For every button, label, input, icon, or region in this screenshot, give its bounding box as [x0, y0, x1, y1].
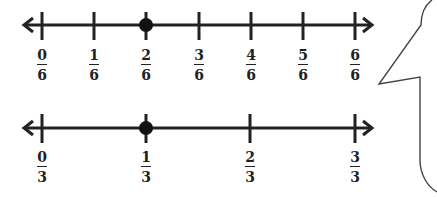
marked-point-dot — [139, 121, 153, 135]
denominator: 3 — [240, 170, 260, 184]
numerator: 2 — [136, 48, 156, 62]
numerator: 3 — [345, 150, 365, 164]
fraction-label: 36 — [189, 48, 209, 82]
fraction-bar — [350, 64, 360, 65]
fraction-bar — [350, 166, 360, 167]
denominator: 3 — [32, 170, 52, 184]
denominator: 6 — [32, 68, 52, 82]
fraction-label: 06 — [32, 48, 52, 82]
fraction-bar — [141, 166, 151, 167]
numerator: 4 — [241, 48, 261, 62]
numerator: 3 — [189, 48, 209, 62]
fraction-bar — [194, 64, 204, 65]
denominator: 6 — [84, 68, 104, 82]
fraction-label: 13 — [136, 150, 156, 184]
denominator: 3 — [136, 170, 156, 184]
fraction-bar — [89, 64, 99, 65]
number-line-sixths — [24, 12, 372, 40]
denominator: 6 — [293, 68, 313, 82]
numerator: 6 — [345, 48, 365, 62]
diagram-canvas — [0, 0, 437, 197]
denominator: 6 — [189, 68, 209, 82]
fraction-label: 23 — [240, 150, 260, 184]
fraction-bar — [246, 64, 256, 65]
numerator: 1 — [84, 48, 104, 62]
number-line-thirds — [24, 114, 372, 143]
fraction-bar — [141, 64, 151, 65]
marked-point-dot — [139, 18, 153, 32]
fraction-label: 56 — [293, 48, 313, 82]
fraction-label: 16 — [84, 48, 104, 82]
denominator: 6 — [241, 68, 261, 82]
numerator: 0 — [32, 150, 52, 164]
fraction-label: 66 — [345, 48, 365, 82]
fraction-bar — [298, 64, 308, 65]
fraction-bar — [245, 166, 255, 167]
numerator: 2 — [240, 150, 260, 164]
numerator: 0 — [32, 48, 52, 62]
speech-bubble — [379, 0, 437, 192]
denominator: 3 — [345, 170, 365, 184]
fraction-label: 33 — [345, 150, 365, 184]
fraction-label: 03 — [32, 150, 52, 184]
denominator: 6 — [136, 68, 156, 82]
numerator: 1 — [136, 150, 156, 164]
numerator: 5 — [293, 48, 313, 62]
fraction-label: 46 — [241, 48, 261, 82]
fraction-bar — [37, 166, 47, 167]
fraction-bar — [37, 64, 47, 65]
denominator: 6 — [345, 68, 365, 82]
fraction-label: 26 — [136, 48, 156, 82]
